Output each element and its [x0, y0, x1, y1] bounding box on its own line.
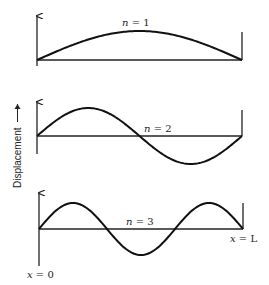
mode-label-n2: n = 2 [144, 123, 172, 134]
wave-curve-n1 [37, 31, 242, 60]
y-axis-label-arrowhead [15, 104, 21, 109]
mode-label-n1: n = 1 [122, 17, 150, 28]
x-end-label: x = L [230, 233, 257, 244]
mode-panel-n2: n = 2 [37, 102, 242, 164]
y-axis-label: Displacement [12, 127, 23, 188]
mode-label-n3: n = 3 [126, 216, 154, 227]
y-axis-label-group: Displacement [12, 104, 23, 188]
standing-wave-diagram: n = 1 n = 2 n = 3 x = L x = 0 Displaceme… [0, 0, 269, 285]
x-start-label: x = 0 [27, 269, 54, 280]
mode-panel-n3: n = 3 x = L x = 0 [27, 193, 257, 280]
mode-panel-n1: n = 1 [37, 16, 242, 66]
